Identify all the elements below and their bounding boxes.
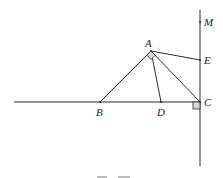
caption-fragment [97, 176, 107, 178]
caption-fragment [118, 176, 130, 178]
point-B [99, 101, 101, 103]
point-A [150, 50, 152, 52]
right-angle-mark-C [193, 102, 200, 109]
point-E [199, 59, 201, 61]
label-M: M [203, 16, 214, 28]
label-C: C [204, 96, 212, 108]
segment-AD [151, 51, 161, 102]
point-D [160, 101, 162, 103]
geometry-figure: A B D C E M [0, 0, 223, 178]
segment-AB [100, 51, 151, 102]
label-A: A [144, 37, 152, 49]
label-E: E [203, 54, 211, 66]
point-M [199, 21, 201, 23]
point-C [199, 101, 201, 103]
right-angle-mark-A [147, 51, 155, 59]
label-B: B [96, 106, 103, 118]
label-D: D [156, 106, 165, 118]
